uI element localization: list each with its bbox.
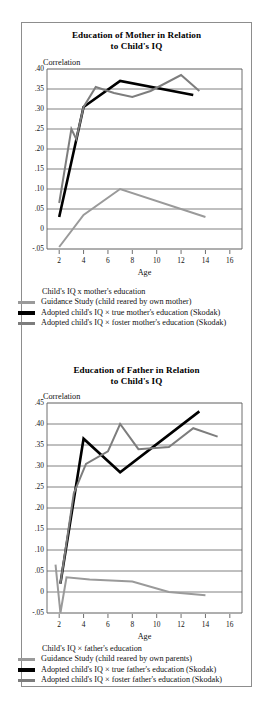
legend-item-foster-mother: Adopted child's IQ × foster mother's edu…	[18, 318, 268, 329]
father-x-tick-label: 16	[226, 621, 233, 628]
father-y-tick-label: .20	[0, 504, 44, 511]
legend-heading-father: Child's IQ × father's education	[42, 643, 268, 654]
mother-x-tick-label: 10	[153, 257, 160, 264]
mother-y-tick-label: .30	[0, 105, 44, 112]
legend-swatch-foster-mother	[18, 322, 35, 325]
figure-page: Education of Mother in Relation to Child…	[0, 0, 273, 704]
chart-title-father-line1: Education of Father in Relation	[73, 365, 199, 375]
father-y-tick-label: .35	[0, 441, 44, 448]
father-y-tick-label: .10	[0, 546, 44, 553]
mother-x-axis-title: Age	[138, 268, 152, 277]
legend-label-guidance-mother: Guidance Study (child reared by own moth…	[41, 297, 192, 308]
legend-label-true-mother: Adopted child's IQ × true mother's educa…	[41, 308, 220, 319]
father-series-0	[56, 565, 206, 613]
legend-label-guidance-father: Guidance Study (child reared by own pare…	[41, 654, 192, 665]
father-x-tick-label: 2	[57, 621, 61, 628]
father-y-tick-label: .30	[0, 462, 44, 469]
mother-y-tick-label: 0	[0, 225, 44, 232]
father-y-tick-label: .05	[0, 567, 44, 574]
mother-x-tick-label: 8	[130, 257, 134, 264]
mother-y-tick-label: .10	[0, 185, 44, 192]
father-y-tick-label: -.05	[0, 609, 44, 616]
mother-series-2	[59, 75, 199, 203]
father-x-tick-label: 10	[153, 621, 160, 628]
mother-x-tick-label: 12	[177, 257, 184, 264]
legend-label-true-father: Adopted child's IQ × true father's educa…	[41, 665, 216, 676]
legend-item-guidance-father: Guidance Study (child reared by own pare…	[18, 654, 268, 665]
mother-y-tick-label: .40	[0, 65, 44, 72]
mother-x-tick-label: 4	[82, 257, 86, 264]
mother-y-tick-label: .15	[0, 165, 44, 172]
legend-item-guidance-mother: Guidance Study (child reared by own moth…	[18, 297, 268, 308]
father-y-tick-label: .40	[0, 420, 44, 427]
mother-y-tick-label: .20	[0, 145, 44, 152]
mother-x-tick-label: 16	[226, 257, 233, 264]
mother-y-tick-label: -.05	[0, 245, 44, 252]
mother-x-tick-label: 14	[202, 257, 209, 264]
legend-swatch-guidance-mother	[18, 301, 35, 304]
mother-x-tick-label: 2	[57, 257, 61, 264]
father-x-tick-label: 6	[106, 621, 110, 628]
father-x-axis-title: Age	[138, 632, 152, 641]
father-y-tick-label: .15	[0, 525, 44, 532]
father-x-tick-label: 8	[130, 621, 134, 628]
father-series-2	[60, 424, 217, 584]
chart-title-father-line2: to Child's IQ	[26, 376, 247, 387]
mother-series-0	[59, 189, 205, 247]
legend-swatch-true-mother	[18, 311, 35, 315]
father-y-tick-label: .25	[0, 483, 44, 490]
legend-label-foster-mother: Adopted child's IQ × foster mother's edu…	[41, 318, 226, 329]
legend-item-true-mother: Adopted child's IQ × true mother's educa…	[18, 308, 268, 319]
father-x-tick-label: 14	[202, 621, 209, 628]
father-y-tick-label: .45	[0, 399, 44, 406]
legend-mother: Child's IQ x mother's education Guidance…	[18, 286, 268, 329]
legend-father: Child's IQ × father's education Guidance…	[18, 643, 268, 686]
chart-title-father: Education of Father in Relation to Child…	[26, 365, 247, 387]
mother-y-tick-label: .05	[0, 205, 44, 212]
legend-swatch-foster-father	[18, 679, 35, 682]
legend-swatch-guidance-father	[18, 658, 35, 661]
father-x-tick-label: 12	[177, 621, 184, 628]
mother-x-tick-label: 6	[106, 257, 110, 264]
father-y-tick-label: 0	[0, 588, 44, 595]
legend-heading-mother: Child's IQ x mother's education	[42, 286, 268, 297]
father-x-tick-label: 4	[82, 621, 86, 628]
legend-label-foster-father: Adopted child's IQ × foster father's edu…	[41, 675, 222, 686]
legend-item-foster-father: Adopted child's IQ × foster father's edu…	[18, 675, 268, 686]
legend-swatch-true-father	[18, 668, 35, 672]
legend-item-true-father: Adopted child's IQ × true father's educa…	[18, 665, 268, 676]
mother-y-tick-label: .25	[0, 125, 44, 132]
mother-y-tick-label: .35	[0, 85, 44, 92]
